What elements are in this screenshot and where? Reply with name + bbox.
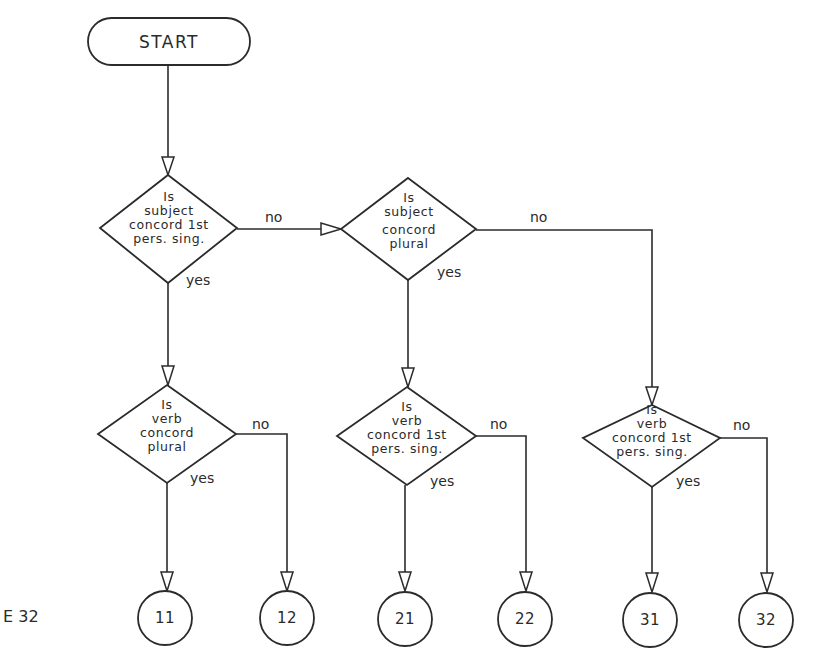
arrowhead-icon: [162, 157, 174, 175]
arrowhead-icon: [402, 368, 414, 387]
terminal-22-label: 22: [498, 610, 552, 628]
terminal-32-label: 32: [739, 611, 793, 629]
edge-label-d2-yes: yes: [437, 264, 461, 280]
connector-d2-no: [476, 230, 652, 387]
start-label: START: [88, 32, 250, 52]
flowchart-lines: [0, 0, 818, 670]
edge-label-d1-no: no: [265, 209, 282, 225]
terminal-12-label: 12: [260, 609, 314, 627]
edge-label-d4-no: no: [490, 416, 507, 432]
arrowhead-icon: [162, 366, 174, 385]
edge-label-d5-yes: yes: [676, 473, 700, 489]
arrowhead-icon: [761, 573, 773, 592]
arrowhead-icon: [161, 572, 173, 591]
edge-label-d1-yes: yes: [186, 272, 210, 288]
arrowhead-icon: [281, 572, 293, 591]
edge-label-d5-no: no: [733, 417, 750, 433]
decision-d2-text: Is subject concord plural: [343, 191, 475, 251]
connector-d3-no: [236, 434, 287, 572]
arrowhead-icon: [399, 572, 411, 591]
arrowhead-icon: [520, 572, 532, 591]
connector-d4-no: [476, 436, 526, 572]
edge-label-d3-no: no: [252, 416, 269, 432]
decision-d5-text: Is verb concord 1st pers. sing.: [586, 403, 718, 459]
arrowhead-icon: [321, 223, 341, 235]
figure-label: E 32: [3, 607, 39, 626]
connector-d5-no: [720, 438, 767, 573]
terminal-31-label: 31: [623, 611, 677, 629]
flowchart-canvas: START Is subject concord 1st pers. sing.…: [0, 0, 818, 670]
terminal-11-label: 11: [138, 609, 192, 627]
edge-label-d3-yes: yes: [190, 470, 214, 486]
arrowhead-icon: [646, 573, 658, 592]
edge-label-d2-no: no: [530, 209, 547, 225]
decision-d4-text: Is verb concord 1st pers. sing.: [341, 400, 473, 456]
terminal-21-label: 21: [378, 610, 432, 628]
edge-label-d4-yes: yes: [430, 473, 454, 489]
decision-d3-text: Is verb concord plural: [101, 398, 233, 454]
decision-d1-text: Is subject concord 1st pers. sing.: [103, 190, 235, 246]
